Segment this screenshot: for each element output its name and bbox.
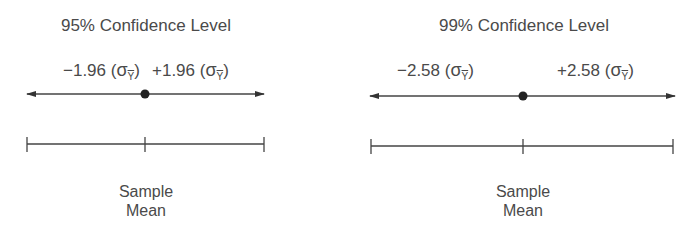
- z-value: +1.96: [152, 61, 195, 80]
- y-bar-subscript: Y: [462, 71, 469, 82]
- z-value: −2.58: [397, 61, 440, 80]
- sigma-symbol: σ: [450, 60, 461, 80]
- label-line: Mean: [119, 201, 173, 220]
- z-right-99: +2.58 (σY): [557, 60, 634, 81]
- title-95: 95% Confidence Level: [61, 16, 231, 36]
- mean-dot-99: [519, 92, 528, 101]
- diagram-lines: [0, 0, 697, 240]
- z-left-99: −2.58 (σY): [397, 60, 474, 81]
- z-value: +2.58: [557, 61, 600, 80]
- label-line: Sample: [496, 182, 550, 201]
- label-line: Sample: [119, 182, 173, 201]
- sigma-symbol: σ: [116, 60, 127, 80]
- scale-line-95: [27, 137, 264, 152]
- title-99: 99% Confidence Level: [439, 16, 609, 36]
- z-left-95: −1.96 (σY): [63, 60, 140, 81]
- label-line: Mean: [496, 201, 550, 220]
- y-bar-subscript: Y: [128, 71, 135, 82]
- y-bar-subscript: Y: [622, 71, 629, 82]
- z-right-95: +1.96 (σY): [152, 60, 229, 81]
- sample-mean-label-95: Sample Mean: [119, 182, 173, 220]
- mean-dot-95: [141, 90, 150, 99]
- z-value: −1.96: [63, 61, 106, 80]
- y-bar-subscript: Y: [217, 71, 224, 82]
- sigma-symbol: σ: [610, 60, 621, 80]
- sample-mean-label-99: Sample Mean: [496, 182, 550, 220]
- sigma-symbol: σ: [205, 60, 216, 80]
- scale-line-99: [371, 139, 673, 154]
